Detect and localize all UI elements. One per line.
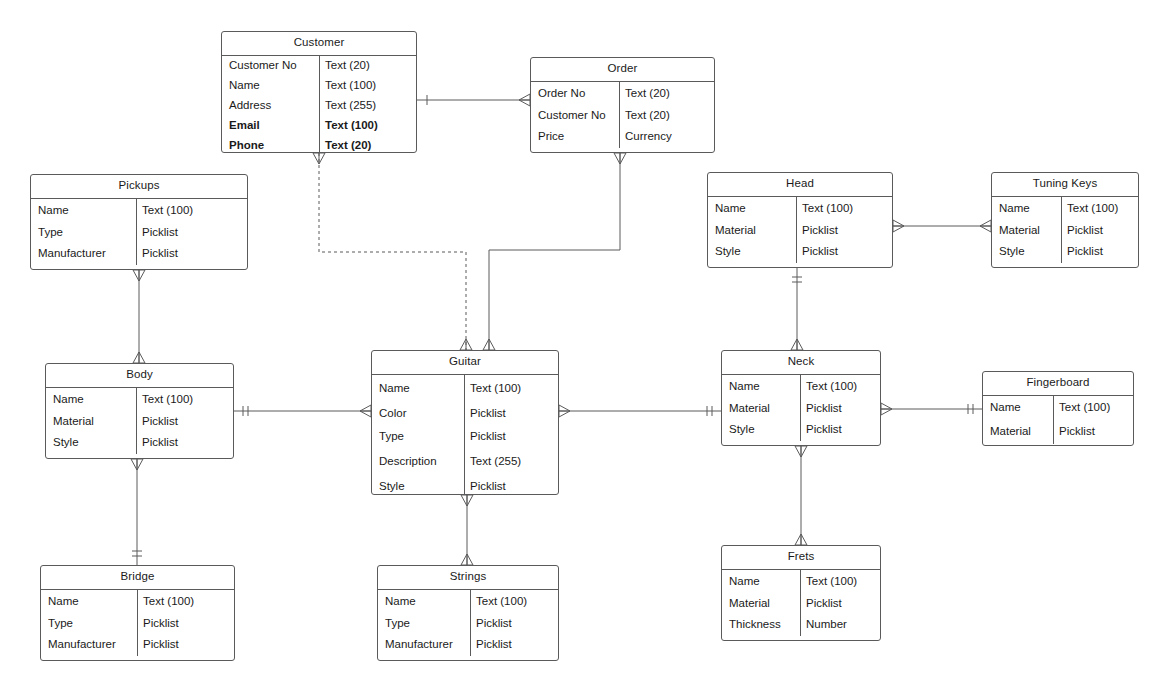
attribute-name: Name (722, 381, 799, 393)
entity-head[interactable]: HeadNameText (100)MaterialPicklistStyleP… (707, 172, 893, 268)
attribute-name: Name (31, 205, 135, 217)
relationship-head-tuningkeys[interactable] (893, 220, 991, 232)
entity-tuningkeys[interactable]: Tuning KeysNameText (100)MaterialPicklis… (991, 172, 1139, 268)
attribute-name: Name (722, 576, 799, 588)
entity-title-guitar: Guitar (372, 351, 558, 375)
attribute-row[interactable]: NameText (100) (372, 375, 558, 403)
column-divider (1053, 396, 1054, 444)
attribute-row[interactable]: Order NoText (20) (531, 82, 714, 106)
entity-pickups[interactable]: PickupsNameText (100)TypePicklistManufac… (30, 174, 248, 270)
cardinality-marker-to (132, 551, 142, 556)
attribute-row[interactable]: MaterialPicklist (983, 420, 1133, 444)
cardinality-marker-from (881, 403, 892, 415)
attribute-name: Description (372, 456, 463, 468)
attribute-row[interactable]: StylePicklist (992, 242, 1138, 263)
relationship-neck-frets[interactable] (795, 446, 807, 545)
attribute-row[interactable]: ManufacturerPicklist (31, 244, 247, 265)
er-diagram-canvas: CustomerCustomer NoText (20)NameText (10… (0, 0, 1163, 693)
attribute-type: Text (100) (1052, 402, 1133, 414)
relationship-guitar-neck[interactable] (559, 405, 721, 417)
attribute-row[interactable]: NameText (100) (378, 590, 558, 614)
attribute-type: Picklist (1060, 225, 1138, 237)
attribute-row[interactable]: ManufacturerPicklist (378, 635, 558, 656)
relationship-body-guitar[interactable] (234, 405, 371, 417)
relationship-head-neck[interactable] (791, 268, 803, 350)
attribute-row[interactable]: MaterialPicklist (46, 412, 233, 433)
column-divider (137, 590, 138, 656)
attribute-row[interactable]: DescriptionText (255) (372, 449, 558, 475)
entity-customer[interactable]: CustomerCustomer NoText (20)NameText (10… (221, 31, 417, 153)
entity-order[interactable]: OrderOrder NoText (20)Customer NoText (2… (530, 57, 715, 153)
entity-title-tuningkeys: Tuning Keys (992, 173, 1138, 197)
attribute-name: Email (222, 120, 318, 132)
attribute-name: Type (41, 618, 136, 630)
relationship-guitar-strings[interactable] (461, 495, 473, 565)
attribute-name: Style (708, 246, 795, 258)
attribute-name: Material (992, 225, 1060, 237)
attribute-row[interactable]: Customer NoText (20) (531, 106, 714, 127)
attribute-row[interactable]: StylePicklist (708, 242, 892, 263)
relationship-body-bridge[interactable] (131, 459, 143, 565)
attribute-name: Name (41, 596, 136, 608)
attribute-name: Name (708, 203, 795, 215)
attribute-name: Type (31, 227, 135, 239)
cardinality-marker-from (559, 405, 570, 417)
attribute-type: Picklist (135, 437, 233, 449)
attribute-row[interactable]: NameText (100) (992, 197, 1138, 221)
entity-bridge[interactable]: BridgeNameText (100)TypePicklistManufact… (40, 565, 235, 661)
attribute-type: Text (255) (318, 100, 416, 112)
entity-title-pickups: Pickups (31, 175, 247, 199)
entity-attributes-pickups: NameText (100)TypePicklistManufacturerPi… (31, 199, 247, 265)
entity-frets[interactable]: FretsNameText (100)MaterialPicklistThick… (721, 545, 881, 641)
cardinality-marker-from (461, 495, 473, 506)
attribute-name: Style (992, 246, 1060, 258)
attribute-row[interactable]: MaterialPicklist (722, 399, 880, 420)
relationship-customer-guitar[interactable] (313, 153, 472, 350)
entity-fingerboard[interactable]: FingerboardNameText (100)MaterialPicklis… (982, 371, 1134, 446)
attribute-row[interactable]: MaterialPicklist (992, 221, 1138, 242)
cardinality-marker-to (483, 339, 495, 350)
column-divider (1061, 197, 1062, 263)
attribute-row[interactable]: MaterialPicklist (708, 221, 892, 242)
attribute-row[interactable]: StylePicklist (46, 433, 233, 454)
cardinality-marker-to (360, 405, 371, 417)
column-divider (796, 197, 797, 263)
entity-attributes-neck: NameText (100)MaterialPicklistStylePickl… (722, 375, 880, 441)
attribute-row[interactable]: StylePicklist (372, 475, 558, 496)
attribute-name: Style (372, 481, 463, 493)
attribute-row[interactable]: MaterialPicklist (722, 594, 880, 615)
attribute-row[interactable]: TypePicklist (378, 614, 558, 635)
relationship-customer-order[interactable] (417, 94, 530, 106)
attribute-row[interactable]: NameText (100) (708, 197, 892, 221)
relationship-order-guitar[interactable] (483, 153, 626, 350)
attribute-row[interactable]: NameText (100) (722, 375, 880, 399)
entity-attributes-customer: Customer NoText (20)NameText (100)Addres… (222, 56, 416, 154)
attribute-row[interactable]: ColorPicklist (372, 403, 558, 426)
entity-guitar[interactable]: GuitarNameText (100)ColorPicklistTypePic… (371, 350, 559, 495)
entity-title-neck: Neck (722, 351, 880, 375)
attribute-type: Text (20) (618, 110, 714, 122)
relationship-neck-fingerboard[interactable] (881, 403, 982, 415)
attribute-row[interactable]: NameText (100) (46, 388, 233, 412)
entity-neck[interactable]: NeckNameText (100)MaterialPicklistStyleP… (721, 350, 881, 446)
entity-body[interactable]: BodyNameText (100)MaterialPicklistStyleP… (45, 363, 234, 459)
attribute-type: Text (100) (799, 381, 880, 393)
attribute-type: Picklist (795, 246, 892, 258)
cardinality-marker-from (893, 220, 904, 232)
attribute-row[interactable]: NameText (100) (31, 199, 247, 223)
attribute-name: Price (531, 131, 618, 143)
entity-title-strings: Strings (378, 566, 558, 590)
attribute-type: Picklist (469, 639, 558, 651)
attribute-row[interactable]: NameText (100) (722, 570, 880, 594)
relationship-pickups-body[interactable] (133, 270, 145, 363)
entity-title-frets: Frets (722, 546, 880, 570)
attribute-row[interactable]: NameText (100) (983, 396, 1133, 420)
attribute-row[interactable]: TypePicklist (372, 426, 558, 449)
column-divider (619, 82, 620, 148)
attribute-row[interactable]: StylePicklist (722, 420, 880, 441)
entity-strings[interactable]: StringsNameText (100)TypePicklistManufac… (377, 565, 559, 661)
attribute-row[interactable]: PriceCurrency (531, 127, 714, 148)
attribute-row[interactable]: TypePicklist (31, 223, 247, 244)
attribute-row[interactable]: ThicknessNumber (722, 615, 880, 636)
attribute-type: Text (255) (463, 456, 558, 468)
